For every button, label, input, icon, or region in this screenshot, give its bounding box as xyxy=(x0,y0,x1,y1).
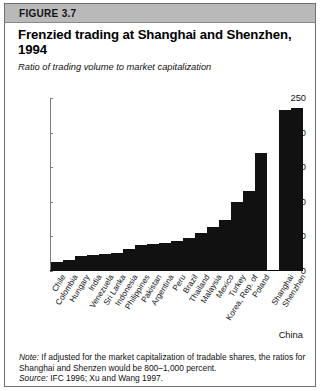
source-text: IFC 1996; Xu and Wang 1997. xyxy=(48,373,163,383)
bar-series xyxy=(51,98,303,271)
figure-subtitle: Ratio of trading volume to market capita… xyxy=(18,62,308,72)
figure-card: FIGURE 3.7 Frenzied trading at Shanghai … xyxy=(4,3,316,387)
group-label-china: China xyxy=(266,330,316,340)
bar xyxy=(207,227,219,271)
bar xyxy=(231,202,243,271)
note-text: If adjusted for the market capitalizatio… xyxy=(19,352,305,373)
bar xyxy=(99,254,111,271)
y-tick-mark xyxy=(50,271,53,272)
bar xyxy=(219,220,231,271)
note-line: Note: If adjusted for the market capital… xyxy=(19,352,307,373)
bar xyxy=(159,243,171,271)
bar xyxy=(279,110,291,271)
bar xyxy=(255,153,267,271)
chart-plot-area: 050100150200250 ChileColombiaHungaryIndi… xyxy=(18,80,306,280)
bar xyxy=(243,191,255,271)
bar xyxy=(195,233,207,271)
bar xyxy=(183,238,195,271)
bar xyxy=(135,245,147,271)
bar xyxy=(291,108,303,271)
figure-label: FIGURE 3.7 xyxy=(19,8,76,19)
figure-title: Frenzied trading at Shanghai and Shenzhe… xyxy=(18,28,303,57)
source-lead: Source: xyxy=(19,373,48,383)
figure-notes: Note: If adjusted for the market capital… xyxy=(19,352,307,384)
bar xyxy=(63,260,75,271)
bar xyxy=(51,262,63,271)
note-lead: Note: xyxy=(19,352,39,362)
bar xyxy=(111,253,123,271)
bar xyxy=(147,244,159,271)
bar xyxy=(123,249,135,271)
bar xyxy=(75,256,87,271)
source-line: Source: IFC 1996; Xu and Wang 1997. xyxy=(19,373,307,384)
bar xyxy=(87,255,99,271)
bar xyxy=(171,241,183,271)
